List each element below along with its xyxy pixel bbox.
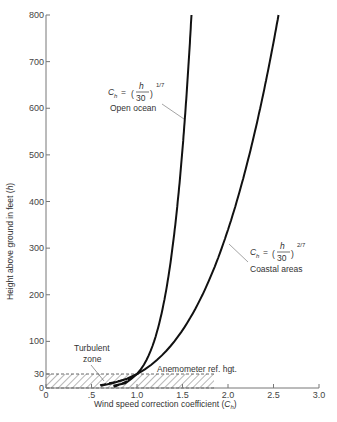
svg-text:30: 30	[136, 93, 146, 103]
svg-text:h: h	[256, 253, 260, 259]
x-tick-label: 2.5	[267, 390, 280, 400]
svg-text:h: h	[139, 81, 144, 91]
svg-text:=: =	[121, 87, 126, 97]
y-axis-ticks: 030100200300400500600700800	[29, 10, 50, 393]
svg-text:1/7: 1/7	[156, 82, 165, 88]
svg-text:zone: zone	[83, 354, 102, 364]
coastal-areas-label: C h = ( h 30 ) 2/7 Coastal areas	[229, 241, 306, 274]
svg-text:(: (	[272, 249, 275, 259]
y-tick-label: 30	[34, 369, 44, 379]
y-tick-label: 100	[29, 336, 44, 346]
svg-text:Coastal areas: Coastal areas	[250, 264, 302, 274]
coastal-areas-curve	[101, 15, 279, 386]
svg-text:(: (	[131, 89, 134, 99]
y-tick-label: 800	[29, 10, 44, 20]
open-ocean-curve	[113, 15, 191, 386]
y-axis-title: Height above ground in feet (h)	[5, 183, 15, 300]
open-ocean-label: C h = ( h 30 ) 1/7 Open ocean	[108, 81, 184, 119]
svg-text:=: =	[263, 247, 268, 257]
y-tick-label: 400	[29, 197, 44, 207]
y-tick-label: 700	[29, 57, 44, 67]
svg-text:): )	[291, 249, 294, 259]
svg-text:Anemometer ref. hgt.: Anemometer ref. hgt.	[157, 364, 237, 374]
svg-text:30: 30	[277, 253, 287, 263]
svg-text:h: h	[114, 93, 118, 99]
svg-text:Open ocean: Open ocean	[110, 103, 157, 113]
svg-text:h: h	[280, 241, 285, 251]
x-axis-title: Wind speed correction coefficient (Ch)	[94, 399, 237, 410]
y-tick-label: 300	[29, 243, 44, 253]
svg-text:): )	[150, 89, 153, 99]
svg-text:2/7: 2/7	[297, 242, 306, 248]
svg-text:Turbulent: Turbulent	[74, 343, 110, 353]
y-tick-label: 600	[29, 103, 44, 113]
x-tick-label: 0	[43, 390, 48, 400]
x-tick-label: 3.0	[313, 390, 326, 400]
wind-profile-chart: 030100200300400500600700800 0.51.01.52.0…	[0, 0, 337, 422]
y-tick-label: 200	[29, 290, 44, 300]
anemometer-label: Anemometer ref. hgt.	[157, 364, 237, 374]
y-tick-label: 500	[29, 150, 44, 160]
